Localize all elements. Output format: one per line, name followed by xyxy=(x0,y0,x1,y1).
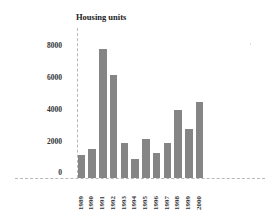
artifact-mark xyxy=(250,43,251,45)
bar-1993 xyxy=(121,143,129,178)
x-tick-label: 1991 xyxy=(98,196,106,210)
y-tick-label: 6000 xyxy=(22,73,62,82)
bar-1998 xyxy=(174,110,182,178)
bar-1990 xyxy=(88,149,96,178)
bar-1989 xyxy=(78,155,86,178)
bar-1995 xyxy=(142,139,150,178)
bar-1992 xyxy=(110,75,118,178)
x-tick-label: 1993 xyxy=(120,196,128,210)
bar-2000 xyxy=(196,102,204,178)
y-tick-label: 4000 xyxy=(22,105,62,114)
x-tick-label: 1989 xyxy=(77,196,85,210)
x-tick-label: 1998 xyxy=(173,196,181,210)
x-tick-label: 1990 xyxy=(87,196,95,210)
bar-1991 xyxy=(99,49,107,178)
bar-1996 xyxy=(153,153,161,178)
bar-1997 xyxy=(164,143,172,178)
x-tick-label: 1995 xyxy=(141,196,149,210)
y-tick-label: 8000 xyxy=(22,41,62,50)
bar-1994 xyxy=(131,159,139,178)
x-tick-label: 1999 xyxy=(184,196,192,210)
bar-1999 xyxy=(185,129,193,178)
x-tick-label: 1994 xyxy=(130,196,138,210)
chart-title: Housing units xyxy=(76,12,126,22)
x-tick-label: 1992 xyxy=(109,196,117,210)
x-axis-baseline xyxy=(15,178,265,179)
x-tick-label: 1997 xyxy=(163,196,171,210)
y-tick-label: 0 xyxy=(22,168,62,177)
x-tick-label: 2000 xyxy=(195,196,203,210)
x-tick-label: 1996 xyxy=(152,196,160,210)
y-tick-label: 2000 xyxy=(22,137,62,146)
